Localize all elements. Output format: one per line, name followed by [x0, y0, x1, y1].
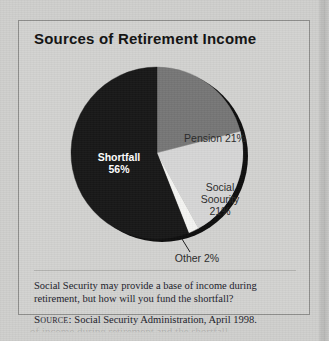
pie-leader-lines [182, 239, 190, 252]
source-label: Source: [34, 313, 72, 325]
leader-line-other [182, 239, 190, 252]
pie-chart-svg: Pension 21%SocialSoourity21%Other 2%Shor… [19, 49, 309, 271]
caption-text: Social Security may provide a base of in… [34, 279, 296, 305]
slice-label-pension: Pension 21% [184, 132, 246, 144]
source-value: Social Security Administration, April 19… [74, 314, 257, 325]
caption-divider [34, 270, 296, 271]
chart-panel: Sources of Retirement Income Pension 21%… [18, 20, 310, 315]
page-title: Sources of Retirement Income [34, 30, 256, 47]
pie-chart: Pension 21%SocialSoourity21%Other 2%Shor… [19, 49, 309, 271]
slice-label-other: Other 2% [175, 252, 219, 264]
bleed-through-text: of income during retirement and the shor… [30, 325, 280, 332]
page-gutter [319, 0, 329, 341]
caption-block: Social Security may provide a base of in… [34, 270, 296, 326]
